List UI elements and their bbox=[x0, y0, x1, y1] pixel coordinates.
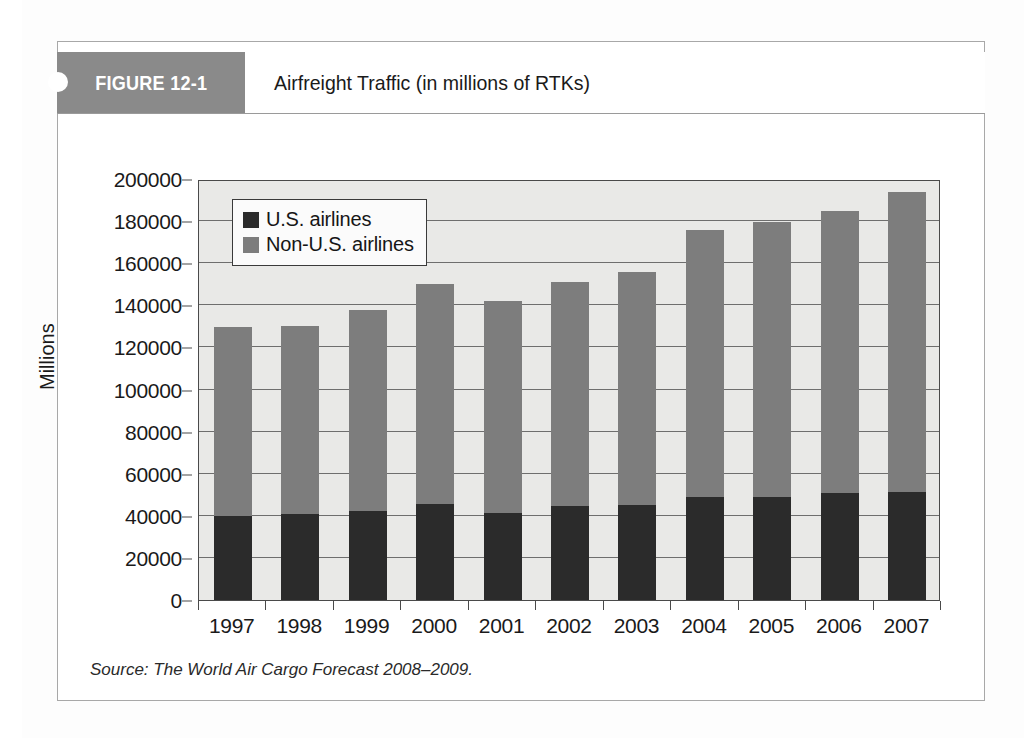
x-tick-mark bbox=[198, 601, 199, 610]
x-tick-mark bbox=[873, 601, 874, 610]
y-tick-label: 80000 bbox=[125, 421, 182, 445]
x-tick-label: 1998 bbox=[276, 614, 322, 638]
bar-segment-non-us-airlines[interactable] bbox=[416, 284, 454, 504]
legend-swatch-icon bbox=[243, 212, 259, 228]
bar-segment-non-us-airlines[interactable] bbox=[618, 272, 656, 506]
figure-title-text: Airfreight Traffic (in millions of RTKs) bbox=[274, 71, 590, 95]
bar-group[interactable] bbox=[349, 310, 387, 600]
bar-segment-us-airlines[interactable] bbox=[214, 516, 252, 600]
y-tick-mark bbox=[182, 264, 192, 265]
figure-page: FIGURE 12-1 Airfreight Traffic (in milli… bbox=[0, 0, 1024, 738]
y-axis-labels: 0200004000060000800001000001200001400001… bbox=[100, 180, 192, 601]
bar-segment-us-airlines[interactable] bbox=[484, 513, 522, 600]
figure-header: FIGURE 12-1 Airfreight Traffic (in milli… bbox=[57, 52, 985, 114]
bar-group[interactable] bbox=[888, 192, 926, 600]
y-tick-mark bbox=[182, 474, 192, 475]
chart-legend: U.S. airlinesNon-U.S. airlines bbox=[232, 199, 427, 266]
x-tick-label: 2001 bbox=[479, 614, 525, 638]
bar-segment-us-airlines[interactable] bbox=[416, 504, 454, 600]
page-left-margin bbox=[0, 0, 22, 738]
x-axis: 1997199819992000200120022003200420052006… bbox=[198, 601, 940, 645]
x-tick-label: 2006 bbox=[816, 614, 862, 638]
y-axis-title: Millions bbox=[36, 323, 59, 390]
x-tick-mark bbox=[603, 601, 604, 610]
y-tick-label: 20000 bbox=[125, 547, 182, 571]
bar-segment-us-airlines[interactable] bbox=[349, 511, 387, 600]
x-tick-label: 2003 bbox=[614, 614, 660, 638]
x-tick-mark bbox=[468, 601, 469, 610]
x-tick-mark bbox=[333, 601, 334, 610]
bar-segment-us-airlines[interactable] bbox=[888, 492, 926, 600]
bar-segment-us-airlines[interactable] bbox=[821, 493, 859, 600]
y-tick-mark bbox=[182, 516, 192, 517]
y-tick-label: 120000 bbox=[114, 336, 182, 360]
y-tick-mark bbox=[182, 390, 192, 391]
y-tick-label: 160000 bbox=[114, 252, 182, 276]
y-tick-label: 140000 bbox=[114, 294, 182, 318]
bar-group[interactable] bbox=[618, 272, 656, 600]
bar-segment-us-airlines[interactable] bbox=[551, 506, 589, 600]
y-tick-label: 40000 bbox=[125, 505, 182, 529]
bar-group[interactable] bbox=[821, 211, 859, 600]
bar-segment-us-airlines[interactable] bbox=[753, 497, 791, 600]
bar-group[interactable] bbox=[551, 282, 589, 600]
bar-segment-non-us-airlines[interactable] bbox=[753, 222, 791, 497]
x-tick-label: 2002 bbox=[546, 614, 592, 638]
x-tick-label: 1997 bbox=[209, 614, 255, 638]
y-tick-mark bbox=[182, 348, 192, 349]
x-tick-mark bbox=[738, 601, 739, 610]
x-tick-label: 1999 bbox=[344, 614, 390, 638]
x-tick-label: 2004 bbox=[681, 614, 727, 638]
y-tick-label: 60000 bbox=[125, 463, 182, 487]
figure-title: Airfreight Traffic (in millions of RTKs) bbox=[262, 52, 602, 113]
x-tick-mark bbox=[805, 601, 806, 610]
x-tick-mark bbox=[940, 601, 941, 610]
bar-segment-non-us-airlines[interactable] bbox=[484, 301, 522, 513]
bar-group[interactable] bbox=[281, 326, 319, 600]
y-tick-mark bbox=[182, 601, 192, 602]
x-tick-label: 2000 bbox=[411, 614, 457, 638]
bar-group[interactable] bbox=[416, 284, 454, 600]
source-note: Source: The World Air Cargo Forecast 200… bbox=[90, 660, 473, 680]
x-tick-mark bbox=[670, 601, 671, 610]
bar-segment-us-airlines[interactable] bbox=[686, 497, 724, 600]
x-tick-mark bbox=[400, 601, 401, 610]
legend-swatch-icon bbox=[243, 237, 259, 253]
tag-notch-icon bbox=[48, 72, 68, 92]
legend-item[interactable]: U.S. airlines bbox=[243, 207, 414, 232]
y-tick-label: 200000 bbox=[114, 168, 182, 192]
y-tick-label: 100000 bbox=[114, 379, 182, 403]
bar-segment-non-us-airlines[interactable] bbox=[551, 282, 589, 506]
legend-item[interactable]: Non-U.S. airlines bbox=[243, 232, 414, 257]
legend-label: Non-U.S. airlines bbox=[266, 233, 414, 256]
bar-group[interactable] bbox=[686, 230, 724, 600]
bar-segment-non-us-airlines[interactable] bbox=[821, 211, 859, 493]
x-tick-mark bbox=[535, 601, 536, 610]
bar-segment-non-us-airlines[interactable] bbox=[349, 310, 387, 511]
y-tick-label: 180000 bbox=[114, 210, 182, 234]
bar-segment-non-us-airlines[interactable] bbox=[888, 192, 926, 492]
bar-segment-non-us-airlines[interactable] bbox=[214, 327, 252, 515]
y-tick-mark bbox=[182, 432, 192, 433]
y-tick-label: 0 bbox=[171, 589, 182, 613]
x-tick-label: 2007 bbox=[884, 614, 930, 638]
bar-segment-us-airlines[interactable] bbox=[618, 505, 656, 600]
y-tick-mark bbox=[182, 306, 192, 307]
figure-tag-block: FIGURE 12-1 bbox=[57, 52, 245, 113]
bar-group[interactable] bbox=[484, 301, 522, 600]
bar-segment-non-us-airlines[interactable] bbox=[281, 326, 319, 513]
bar-segment-non-us-airlines[interactable] bbox=[686, 230, 724, 497]
x-tick-label: 2005 bbox=[749, 614, 795, 638]
bar-group[interactable] bbox=[214, 327, 252, 600]
bar-segment-us-airlines[interactable] bbox=[281, 514, 319, 600]
x-tick-mark bbox=[265, 601, 266, 610]
y-tick-mark bbox=[182, 222, 192, 223]
y-tick-mark bbox=[182, 558, 192, 559]
bar-group[interactable] bbox=[753, 222, 791, 600]
y-tick-mark bbox=[182, 180, 192, 181]
figure-tag-label: FIGURE 12-1 bbox=[95, 71, 207, 95]
legend-label: U.S. airlines bbox=[266, 208, 371, 231]
